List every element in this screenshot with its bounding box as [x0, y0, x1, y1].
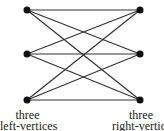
vertex-R1 [137, 7, 144, 14]
vertex-L3 [24, 97, 31, 104]
vertex-R2 [137, 51, 144, 58]
vertex-L1 [24, 7, 31, 14]
edges [27, 10, 140, 100]
left-label-line2: left-vertices [0, 121, 55, 131]
right-label-line2: right-vertice [112, 121, 164, 131]
left-label: three left-vertices [0, 110, 55, 131]
vertex-R3 [137, 97, 144, 104]
vertex-L2 [24, 51, 31, 58]
right-label: three right-vertice [112, 110, 164, 131]
